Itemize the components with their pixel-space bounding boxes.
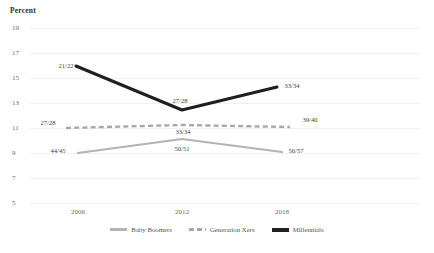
point-label-millennials-2012: 27/28 (172, 97, 187, 104)
point-label-boomers-2018: 56/57 (288, 147, 303, 154)
legend-item-millennials[interactable]: Millennials (272, 226, 324, 233)
point-label-millennials-2006: 21/22 (58, 62, 73, 69)
point-label-genx-mid: 33/34 (175, 128, 190, 135)
legend-label-generation-xers: Generation Xers (210, 226, 255, 233)
x-tick-2006: 2006 (71, 208, 85, 216)
point-label-millennials-2018: 33/34 (284, 82, 299, 89)
point-label-boomers-2012: 50/51 (174, 145, 189, 152)
line-chart: Percent 19 17 15 13 11 9 7 5 21/22 27/28… (0, 0, 434, 253)
chart-legend: Baby Boomers Generation Xers Millennials (0, 226, 434, 233)
point-label-genx-2006: 27/28 (40, 119, 55, 126)
legend-label-millennials: Millennials (293, 226, 324, 233)
x-tick-2018: 2018 (275, 208, 289, 216)
plot-area (0, 0, 434, 253)
legend-swatch-icon (110, 228, 127, 231)
legend-label-baby-boomers: Baby Boomers (131, 226, 172, 233)
legend-item-generation-xers[interactable]: Generation Xers (189, 226, 255, 233)
legend-item-baby-boomers[interactable]: Baby Boomers (110, 226, 172, 233)
legend-swatch-icon (272, 228, 289, 232)
point-label-boomers-2006: 44/45 (50, 147, 65, 154)
point-label-genx-2018: 39/40 (302, 116, 317, 123)
legend-swatch-dashed-icon (189, 228, 206, 231)
x-tick-2012: 2012 (175, 208, 189, 216)
